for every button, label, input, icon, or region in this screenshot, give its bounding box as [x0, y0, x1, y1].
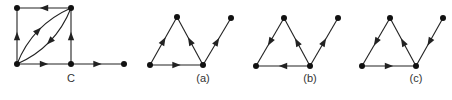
node-b: [307, 63, 313, 69]
arrowhead-icon: [279, 63, 287, 69]
graph-label: (c): [410, 72, 423, 84]
arrowhead-icon: [93, 61, 101, 67]
node-tl: [14, 5, 20, 11]
arrowhead-icon: [427, 37, 434, 46]
arrowhead-icon: [319, 38, 326, 47]
graph-C: C: [14, 5, 127, 84]
node-bm: [68, 61, 74, 67]
arrowhead-icon: [401, 38, 408, 47]
directed-graph-figure: C (a) (b) (c): [0, 0, 452, 100]
node-tr: [335, 15, 341, 21]
arrowhead-icon: [212, 38, 219, 47]
node-l: [253, 63, 259, 69]
curved-edge-bl-to-tr: [17, 8, 71, 64]
node-t: [387, 15, 393, 21]
graph-label: (a): [196, 72, 209, 84]
node-r: [121, 61, 127, 67]
arrowhead-icon: [14, 32, 20, 40]
arrowhead-icon: [172, 62, 180, 68]
arrowhead-icon: [68, 32, 74, 40]
arrowhead-icon: [40, 61, 48, 67]
node-b: [200, 62, 206, 68]
arrowhead-icon: [188, 37, 195, 46]
node-t: [174, 14, 180, 20]
node-tr: [68, 5, 74, 11]
node-b: [413, 63, 419, 69]
node-l: [359, 63, 365, 69]
arrowhead-icon: [268, 37, 275, 46]
graph-label: C: [67, 72, 75, 84]
arrowhead-icon: [295, 38, 302, 47]
graph-a: (a): [147, 14, 234, 84]
curved-edge-tr-to-bl: [17, 8, 71, 64]
node-tr: [440, 15, 446, 21]
arrowhead-icon: [159, 37, 166, 46]
node-l: [147, 62, 153, 68]
graph-c: (c): [359, 15, 446, 84]
node-t: [281, 15, 287, 21]
graph-b: (b): [253, 15, 341, 84]
arrowhead-icon: [374, 37, 381, 46]
arrowhead-icon: [40, 5, 48, 11]
graph-label: (b): [303, 72, 316, 84]
node-bl: [14, 61, 20, 67]
arrowhead-icon: [385, 63, 393, 69]
node-tr: [228, 15, 234, 21]
